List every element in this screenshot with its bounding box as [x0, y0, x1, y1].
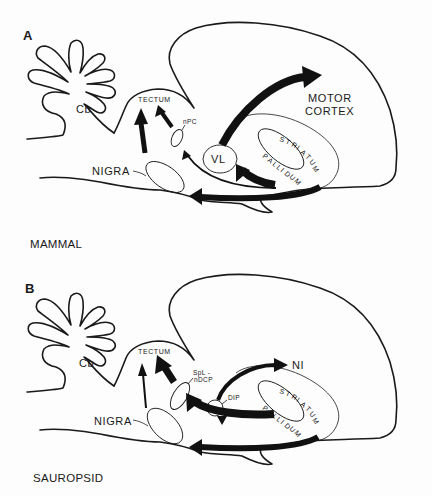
- arrowhead-icon: [189, 439, 202, 456]
- panel-a-brain-outline: [40, 22, 397, 212]
- arrow-dip-to-ni: [218, 365, 275, 400]
- arrowhead-icon: [302, 66, 322, 88]
- panel-a-npc-label: nPC: [183, 118, 197, 125]
- panel-a-npc: [169, 128, 186, 149]
- panel-b-tectum-label: TECTUM: [138, 348, 171, 355]
- panel-b-cb-label: Cb: [79, 357, 94, 369]
- panel-b-target-label: NI: [292, 359, 304, 371]
- arrow-nigra-to-tectum: [141, 123, 145, 153]
- panel-b-species-label: SAUROPSID: [33, 472, 103, 484]
- panel-b-cerebellum-outline: [27, 293, 115, 392]
- panel-b-letter: B: [25, 281, 34, 296]
- panel-a-target-label-1: MOTOR: [308, 92, 352, 104]
- arrow-striatum-to-nigra: [200, 187, 320, 198]
- arrow-striatum-to-nigra: [200, 437, 318, 448]
- arrow-spl-to-tectum: [165, 368, 174, 382]
- panel-b-dip-label: DIP: [228, 394, 240, 401]
- arrow-vl-to-motor-cortex: [222, 77, 305, 145]
- panel-b: B Cb DIP SpL - nDCP NIGRA TECTUM NI S T …: [25, 274, 397, 484]
- figure: A Cb VL nPC NIGRA TECTUM MOTOR CORTEX S …: [0, 0, 432, 496]
- panel-a-species-label: MAMMAL: [30, 238, 83, 250]
- panel-a-cerebellum-outline: [27, 40, 115, 139]
- arrowhead-icon: [274, 358, 288, 372]
- panel-b-spl-label-2: nDCP: [194, 376, 213, 383]
- panel-a: A Cb VL nPC NIGRA TECTUM MOTOR CORTEX S …: [23, 22, 397, 250]
- arrowhead-icon: [189, 188, 202, 205]
- arrow-nigra-to-tectum: [143, 374, 146, 408]
- panel-a-tectum-label: TECTUM: [138, 96, 171, 103]
- panel-b-nigra-label: NIGRA: [94, 415, 132, 427]
- arrowhead-icon: [217, 416, 227, 425]
- panel-a-letter: A: [23, 28, 33, 43]
- panel-b-brain-outline: [40, 274, 397, 464]
- panel-a-nigra: [141, 155, 190, 198]
- panel-a-pathways: [134, 66, 322, 205]
- arrow-npc-to-tectum: [162, 113, 172, 127]
- panel-a-target-label-2: CORTEX: [305, 105, 354, 117]
- arrowhead-icon: [134, 108, 148, 125]
- panel-a-nigra-label: NIGRA: [92, 165, 130, 177]
- panel-a-cb-label: Cb: [76, 103, 91, 115]
- panel-a-vl-label: VL: [211, 153, 226, 165]
- arrowhead-icon: [138, 363, 147, 376]
